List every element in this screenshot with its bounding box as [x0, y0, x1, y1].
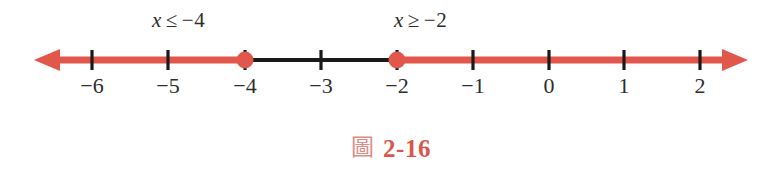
inequality-label-left: x≤−4 — [152, 8, 205, 33]
ray-right-red — [397, 49, 748, 71]
tick-label--5: −5 — [138, 73, 198, 99]
tick-label-2: 2 — [670, 73, 730, 99]
inequality-right-variable: x — [394, 8, 404, 32]
tick-label--2: −2 — [367, 73, 427, 99]
number-line-figure: x≤−4 x≥−2 — [0, 0, 782, 178]
tick-label--6: −6 — [62, 73, 122, 99]
ray-left-red — [34, 49, 245, 71]
inequality-left-value: −4 — [182, 8, 205, 32]
inequality-right-relation: ≥ — [408, 8, 420, 32]
inequality-left-relation: ≤ — [166, 8, 178, 32]
tick-label--1: −1 — [443, 73, 503, 99]
inequality-right-value: −2 — [424, 8, 447, 32]
tick-label-1: 1 — [594, 73, 654, 99]
tick-label-0: 0 — [519, 73, 579, 99]
tick-label--4: −4 — [215, 73, 275, 99]
tick-label--3: −3 — [291, 73, 351, 99]
inequality-left-variable: x — [152, 8, 162, 32]
endpoint-closed--4 — [237, 52, 254, 69]
endpoint-closed--2 — [389, 52, 406, 69]
inequality-label-right: x≥−2 — [394, 8, 447, 33]
figure-number: 2-16 — [383, 136, 431, 161]
figure-caption: 圖2-16 — [0, 136, 782, 161]
figure-glyph-icon: 圖 — [351, 136, 374, 159]
